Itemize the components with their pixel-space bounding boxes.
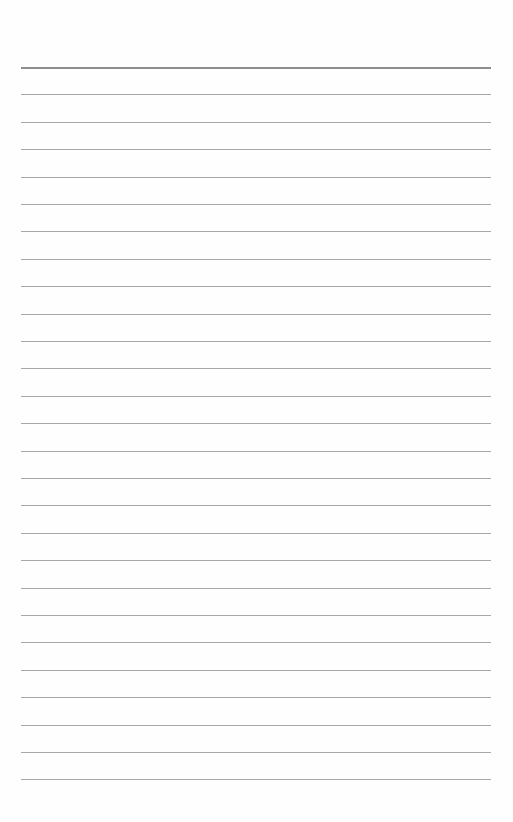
rule-line	[21, 314, 491, 315]
rule-line	[21, 725, 491, 726]
rule-line	[21, 423, 491, 424]
rule-line	[21, 286, 491, 287]
rule-line	[21, 670, 491, 671]
rule-line	[21, 560, 491, 561]
rule-line	[21, 478, 491, 479]
rule-line	[21, 122, 491, 123]
rule-line	[21, 94, 491, 95]
rule-line	[21, 231, 491, 232]
rule-line	[21, 396, 491, 397]
rule-line	[21, 697, 491, 698]
rule-line	[21, 341, 491, 342]
rule-line	[21, 259, 491, 260]
rule-line	[21, 505, 491, 506]
lined-paper-sheet	[0, 0, 513, 822]
rule-line	[21, 204, 491, 205]
rule-line	[21, 615, 491, 616]
rule-line	[21, 779, 491, 780]
rule-line	[21, 451, 491, 452]
header-rule-line	[21, 67, 491, 69]
rule-line	[21, 588, 491, 589]
rule-line	[21, 177, 491, 178]
rule-line	[21, 368, 491, 369]
rule-line	[21, 752, 491, 753]
rule-line	[21, 533, 491, 534]
rule-line	[21, 149, 491, 150]
rule-line	[21, 642, 491, 643]
